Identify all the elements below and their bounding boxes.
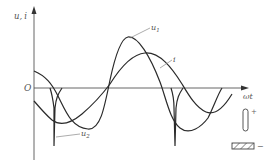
curve-u1: [34, 37, 222, 131]
u1-leader-line: [130, 28, 150, 38]
plus-label: +: [251, 108, 257, 116]
u2-leader-line: [56, 134, 80, 137]
negative-plate-icon: [232, 143, 254, 149]
positive-plate-icon: [243, 109, 248, 131]
x-axis-label: ωt: [243, 92, 254, 101]
x-axis-arrow-icon: [241, 86, 249, 91]
curve-u1-label: u1: [151, 23, 160, 33]
curve-u2-spike-1: [50, 88, 62, 146]
y-axis-label: u,i: [14, 11, 27, 21]
minus-label: −: [257, 142, 264, 151]
waveform-diagram: u,i O ωt u1 i u2 + −: [0, 0, 269, 168]
curve-u2-label: u2: [81, 129, 90, 139]
curve-i-label: i: [173, 55, 176, 64]
origin-label: O: [24, 83, 32, 93]
y-axis-arrow-icon: [32, 6, 37, 14]
